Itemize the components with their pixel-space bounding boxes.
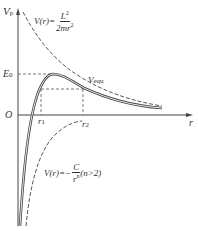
vequ-label: Vequ xyxy=(88,76,104,85)
y-axis-arrow-icon xyxy=(16,8,20,15)
origin-label: O xyxy=(5,110,12,120)
r2-label: r2 xyxy=(82,120,89,129)
centrifugal-formula: V(r)=L22mr2 xyxy=(34,10,74,34)
x-axis-label: r xyxy=(189,118,193,128)
e0-label: E0 xyxy=(3,69,13,79)
potential-diagram xyxy=(0,0,198,231)
y-axis-label: Vp xyxy=(3,6,13,17)
r1-label: r1 xyxy=(38,117,45,126)
attractive-formula: V(r)=−Crn(n>2) xyxy=(44,163,101,185)
